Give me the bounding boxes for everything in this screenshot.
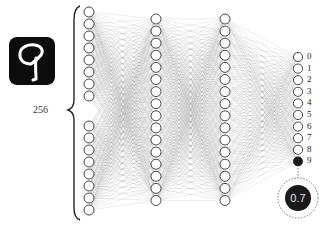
input-node xyxy=(84,205,94,215)
output-label: 5 xyxy=(307,110,312,119)
hidden1-node xyxy=(151,171,161,181)
prediction-callout: 0.7 xyxy=(278,168,318,218)
prediction-value: 0.7 xyxy=(290,192,305,204)
output-node xyxy=(293,99,302,108)
input-node xyxy=(84,193,94,203)
output-node xyxy=(293,145,302,154)
hidden1-node xyxy=(151,111,161,121)
hidden1-node xyxy=(151,62,161,72)
hidden2-node xyxy=(220,99,230,109)
hidden1-node xyxy=(151,123,161,133)
hidden2-node xyxy=(220,123,230,133)
input-node xyxy=(84,67,94,77)
input-node xyxy=(84,31,94,41)
input-node xyxy=(84,91,94,101)
output-label: 1 xyxy=(307,64,312,73)
output-node xyxy=(293,122,302,131)
output-label: 3 xyxy=(307,87,312,96)
output-node xyxy=(293,76,302,85)
hidden2-node xyxy=(220,14,230,24)
input-node xyxy=(84,181,94,191)
neural-network-diagram: 0.7 xyxy=(0,0,328,227)
hidden2-node xyxy=(220,147,230,157)
input-node xyxy=(84,121,94,131)
hidden1-node xyxy=(151,147,161,157)
output-node xyxy=(293,110,302,119)
hidden1-node xyxy=(151,38,161,48)
output-label: 0 xyxy=(307,52,312,61)
input-node xyxy=(84,7,94,17)
output-label: 6 xyxy=(307,122,312,131)
hidden2-node xyxy=(220,135,230,145)
input-node xyxy=(84,43,94,53)
hidden2-node xyxy=(220,75,230,85)
input-node xyxy=(84,169,94,179)
hidden2-node xyxy=(220,111,230,121)
output-label: 9 xyxy=(307,156,312,165)
connections xyxy=(89,12,298,210)
hidden1-node xyxy=(151,196,161,206)
output-node xyxy=(293,52,302,61)
output-node xyxy=(293,64,302,73)
input-node xyxy=(84,55,94,65)
hidden1-node xyxy=(151,99,161,109)
hidden2-node xyxy=(220,171,230,181)
hidden1-node xyxy=(151,183,161,193)
hidden2-node xyxy=(220,62,230,72)
hidden1-node xyxy=(151,75,161,85)
hidden2-node xyxy=(220,26,230,36)
output-label: 8 xyxy=(307,145,312,154)
hidden1-node xyxy=(151,159,161,169)
input-node xyxy=(84,157,94,167)
input-node xyxy=(84,133,94,143)
output-label: 2 xyxy=(307,75,312,84)
hidden1-node xyxy=(151,26,161,36)
input-node xyxy=(84,145,94,155)
hidden2-node xyxy=(220,87,230,97)
hidden2-node xyxy=(220,196,230,206)
output-node xyxy=(293,134,302,143)
input-node xyxy=(84,19,94,29)
input-node xyxy=(84,79,94,89)
hidden1-node xyxy=(151,50,161,60)
output-node xyxy=(293,157,302,166)
output-label: 4 xyxy=(307,98,312,107)
hidden2-node xyxy=(220,183,230,193)
hidden1-node xyxy=(151,14,161,24)
hidden2-node xyxy=(220,38,230,48)
hidden2-node xyxy=(220,159,230,169)
output-label: 7 xyxy=(307,133,312,142)
hidden1-node xyxy=(151,87,161,97)
output-node xyxy=(293,87,302,96)
input-layer-brace xyxy=(68,6,80,220)
hidden1-node xyxy=(151,135,161,145)
hidden2-node xyxy=(220,50,230,60)
